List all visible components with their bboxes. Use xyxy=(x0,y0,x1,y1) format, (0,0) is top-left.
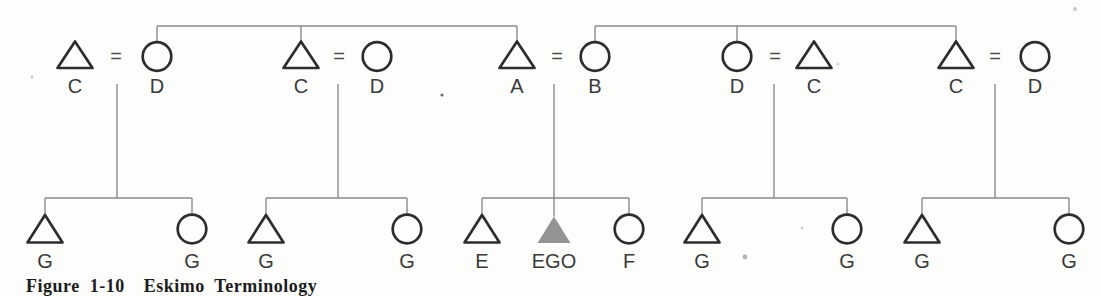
figure-caption: Figure 1-10 Eskimo Terminology xyxy=(26,277,317,295)
kin-type-label: G xyxy=(184,250,200,272)
marriage-equals-sign: = xyxy=(989,45,1001,67)
kin-type-label: D xyxy=(730,75,744,97)
female-circle xyxy=(178,215,207,244)
paper-speck xyxy=(801,227,804,230)
female-circle xyxy=(723,42,752,71)
kin-type-label: C xyxy=(68,75,82,97)
female-circle xyxy=(1021,42,1050,71)
marriage-equals-sign: = xyxy=(110,45,122,67)
male-triangle xyxy=(28,215,63,243)
female-circle xyxy=(615,215,644,244)
ego-label: EGO xyxy=(532,250,576,272)
male-triangle xyxy=(939,42,974,69)
marriage-equals-sign: = xyxy=(551,45,563,67)
marriage-equals-sign: = xyxy=(333,45,345,67)
kin-type-label: F xyxy=(623,250,635,272)
paper-speck xyxy=(31,76,34,79)
kin-type-label: G xyxy=(37,250,53,272)
ego-filled-triangle xyxy=(538,217,571,244)
female-circle xyxy=(833,215,862,244)
paper-speck xyxy=(1073,7,1077,11)
male-triangle xyxy=(465,215,500,243)
male-triangle xyxy=(797,42,832,69)
male-triangle xyxy=(249,215,284,243)
male-triangle xyxy=(284,42,319,69)
kin-type-label: G xyxy=(914,250,930,272)
paper-speck xyxy=(743,255,748,260)
kin-type-label: D xyxy=(1028,75,1042,97)
marriage-equals-sign: = xyxy=(769,45,781,67)
kin-type-label: B xyxy=(588,75,601,97)
female-circle xyxy=(143,42,172,71)
kin-type-label: G xyxy=(399,250,415,272)
female-circle xyxy=(363,42,392,71)
kin-type-label: C xyxy=(294,75,308,97)
male-triangle xyxy=(58,42,93,69)
kin-type-label: G xyxy=(1061,250,1077,272)
female-circle xyxy=(1055,215,1084,244)
female-circle xyxy=(581,42,610,71)
kin-type-label: E xyxy=(475,250,488,272)
male-triangle xyxy=(500,42,535,69)
male-triangle xyxy=(905,215,940,243)
kin-type-label: D xyxy=(370,75,384,97)
kin-type-label: G xyxy=(258,250,274,272)
male-triangle xyxy=(685,215,720,243)
paper-speck xyxy=(440,93,443,96)
kin-type-label: A xyxy=(510,75,524,97)
paper-speck xyxy=(837,63,840,66)
kin-type-label: C xyxy=(807,75,821,97)
kin-type-label: C xyxy=(949,75,963,97)
kin-type-label: D xyxy=(150,75,164,97)
female-circle xyxy=(393,215,422,244)
kin-type-label: G xyxy=(694,250,710,272)
kin-type-label: G xyxy=(839,250,855,272)
